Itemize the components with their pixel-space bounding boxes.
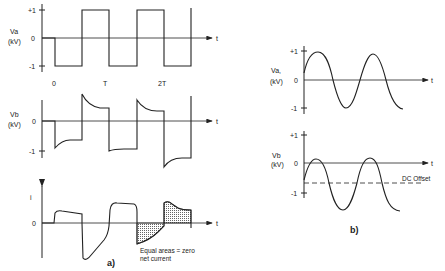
equal-areas-annotation: Equal areas = zero: [140, 247, 195, 255]
b-vb-tick-minus1: -1: [291, 190, 297, 197]
va-tick-minus1: -1: [29, 63, 35, 70]
vb-yunit: (kV): [8, 121, 21, 129]
panel-b-va-plot: Va, (kV) +1 0 -1 t: [270, 46, 433, 114]
b-va-tick-minus1: -1: [291, 105, 297, 112]
i-ylabel: i: [30, 194, 32, 201]
va-yunit: (kV): [8, 38, 21, 46]
positive-area-shading: [164, 202, 191, 223]
b-vb-xlabel: t: [431, 160, 433, 167]
b-va-yunit: (kV): [270, 78, 283, 86]
panel-a-va-plot: Va (kV) +1 0 -1 t 0 T 2T: [8, 4, 218, 87]
b-vb-tick-0: 0: [294, 160, 298, 167]
i-xlabel: t: [216, 220, 218, 227]
va-square-wave: [42, 8, 191, 66]
panel-a-caption: a): [107, 258, 115, 268]
time-label-2T: 2T: [158, 80, 167, 87]
time-label-0: 0: [52, 80, 56, 87]
va-xlabel: t: [216, 35, 218, 42]
figure-canvas: Va (kV) +1 0 -1 t 0 T 2T Vb (kV) 0 -1 t …: [0, 0, 445, 271]
negative-area-shading: [137, 223, 164, 244]
b-va-sine-wave: [304, 52, 403, 109]
net-current-annotation: net current: [140, 255, 171, 262]
vb-ylabel: Vb: [10, 111, 19, 118]
time-label-T: T: [103, 80, 108, 87]
vb-xlabel: t: [216, 118, 218, 125]
b-va-ylabel: Va,: [271, 67, 281, 74]
va-ylabel: Va: [10, 28, 18, 35]
panel-a-i-plot: i 0 t Equal areas = zero net current a): [30, 186, 218, 268]
b-va-xlabel: t: [431, 77, 433, 84]
b-vb-tick-plus1: +1: [290, 132, 298, 139]
vb-tick-minus1: -1: [29, 148, 35, 155]
va-tick-0: 0: [31, 35, 35, 42]
va-tick-plus1: +1: [28, 7, 36, 14]
b-va-tick-plus1: +1: [290, 48, 298, 55]
panel-a-vb-plot: Vb (kV) 0 -1 t: [8, 94, 218, 167]
vb-distorted-wave: [42, 94, 191, 167]
vb-tick-0: 0: [32, 118, 36, 125]
panel-b-vb-plot: Vb (kV) +1 0 -1 t DC Offset b): [271, 131, 433, 235]
b-vb-ylabel: Vb: [272, 152, 281, 159]
dc-offset-label: DC Offset: [402, 175, 431, 182]
b-va-tick-0: 0: [294, 77, 298, 84]
panel-b-caption: b): [350, 225, 359, 235]
b-vb-yunit: (kV): [271, 161, 284, 169]
i-tick-0: 0: [32, 220, 36, 227]
b-vb-sine-offset-wave: [304, 158, 400, 211]
